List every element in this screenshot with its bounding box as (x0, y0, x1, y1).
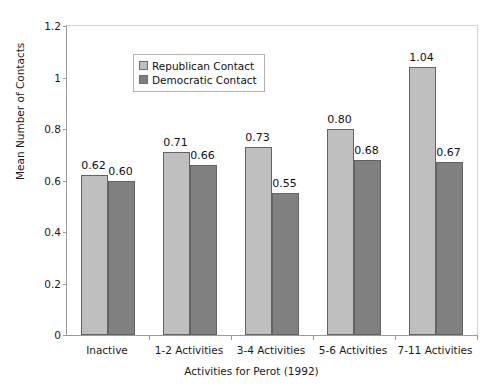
bar (436, 162, 463, 335)
x-tick-label: 3-4 Activities (237, 344, 305, 356)
bar (81, 175, 108, 335)
legend-swatch-icon (139, 61, 148, 70)
x-tick-mark (231, 335, 232, 340)
y-tick-label: 0.6 (44, 175, 61, 187)
x-tick-mark (395, 335, 396, 340)
bar-value-label: 0.60 (108, 165, 133, 178)
bar-value-label: 0.66 (190, 149, 215, 162)
bar-value-label: 1.04 (409, 51, 434, 64)
bar (354, 160, 381, 335)
legend-label: Democratic Contact (152, 74, 257, 86)
bar-value-label: 0.71 (163, 136, 188, 149)
x-tick-label: Inactive (86, 344, 128, 356)
bar (108, 181, 135, 336)
x-tick-mark (313, 335, 314, 340)
y-tick-mark (63, 129, 67, 130)
y-tick-label: 1.2 (44, 20, 61, 32)
legend-item-democratic: Democratic Contact (139, 73, 257, 86)
x-tick-label: 5-6 Activities (319, 344, 387, 356)
y-tick-label: 0 (54, 329, 61, 341)
y-tick-mark (63, 181, 67, 182)
bar (272, 193, 299, 335)
bar (163, 152, 190, 335)
x-tick-label: 7-11 Activities (397, 344, 472, 356)
bar-value-label: 0.80 (327, 113, 352, 126)
y-tick-label: 0.2 (44, 278, 61, 290)
bar-value-label: 0.73 (245, 131, 270, 144)
y-tick-label: 0.8 (44, 123, 61, 135)
bar-value-label: 0.67 (436, 146, 461, 159)
x-axis-title: Activities for Perot (1992) (0, 365, 503, 377)
y-axis-title: Mean Number of Contacts (14, 43, 26, 180)
y-tick-label: 0.4 (44, 226, 61, 238)
y-tick-mark (63, 232, 67, 233)
x-tick-mark (477, 335, 478, 340)
bar (190, 165, 217, 335)
bar-value-label: 0.55 (272, 177, 297, 190)
x-tick-mark (149, 335, 150, 340)
bar (409, 67, 436, 335)
bar-chart: Mean Number of Contacts 00.20.40.60.811.… (0, 0, 503, 389)
bar (327, 129, 354, 335)
y-tick-label: 1 (54, 72, 61, 84)
bar-value-label: 0.62 (81, 159, 106, 172)
bar-value-label: 0.68 (354, 144, 379, 157)
legend-label: Republican Contact (152, 60, 254, 72)
legend-swatch-icon (139, 75, 148, 84)
x-tick-label: 1-2 Activities (155, 344, 223, 356)
bar (245, 147, 272, 335)
y-tick-mark (63, 335, 67, 336)
y-tick-mark (63, 78, 67, 79)
legend-item-republican: Republican Contact (139, 59, 257, 72)
legend: Republican Contact Democratic Contact (133, 54, 265, 92)
y-tick-mark (63, 284, 67, 285)
y-tick-mark (63, 26, 67, 27)
